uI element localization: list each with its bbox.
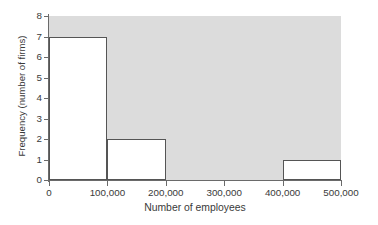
y-tick-label: 7 (28, 32, 42, 42)
histogram-chart: Frequency (number of firms) 012345678 01… (0, 0, 378, 225)
y-tick-label: 2 (28, 134, 42, 144)
y-tick-label: 8 (28, 11, 42, 21)
y-tick-label: 0 (28, 175, 42, 185)
x-axis-line (48, 180, 342, 181)
y-tick-mark (44, 16, 49, 17)
x-tick-mark (224, 181, 225, 186)
x-tick-mark (341, 181, 342, 186)
histogram-bar (49, 37, 107, 181)
histogram-bar (107, 139, 165, 180)
y-tick-label: 1 (28, 155, 42, 165)
x-tick-label: 500,000 (306, 187, 376, 198)
y-tick-label: 6 (28, 52, 42, 62)
x-tick-mark (166, 181, 167, 186)
histogram-bar (283, 160, 341, 181)
x-axis-title: Number of employees (49, 202, 341, 214)
y-tick-label: 4 (28, 93, 42, 103)
x-tick-mark (107, 181, 108, 186)
x-tick-mark (49, 181, 50, 186)
y-tick-label: 5 (28, 73, 42, 83)
y-tick-label: 3 (28, 114, 42, 124)
x-tick-mark (283, 181, 284, 186)
